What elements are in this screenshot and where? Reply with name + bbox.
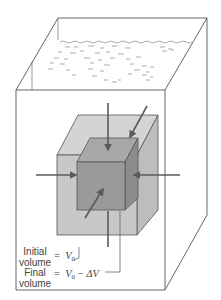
- final-volume-equation: = V0 − ΔV: [54, 268, 99, 281]
- final-volume-label: Final volume: [18, 267, 52, 289]
- initial-volume-label: Initial volume: [18, 246, 52, 268]
- water-surface: [48, 41, 192, 82]
- initial-volume-equation: = V0: [54, 250, 75, 263]
